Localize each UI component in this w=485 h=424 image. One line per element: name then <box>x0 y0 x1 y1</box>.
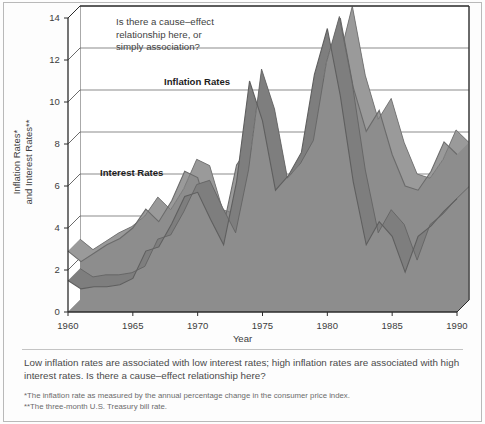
footnote-one: *The inflation rate as measured by the a… <box>24 390 464 401</box>
y-tick-label: 12 <box>28 54 60 65</box>
caption-text: Low inflation rates are associated with … <box>24 356 464 383</box>
x-tick-label: 1980 <box>307 320 347 331</box>
x-tick-label: 1985 <box>372 320 412 331</box>
series-label-inflation: Inflation Rates <box>164 76 230 87</box>
chart-annotation: Is there a cause–effect relationship her… <box>116 16 276 54</box>
y-tick-label: 6 <box>28 180 60 191</box>
y-axis-label-line: and Interest Rates** <box>23 92 35 232</box>
y-tick-label: 14 <box>28 12 60 23</box>
y-tick-label: 2 <box>28 264 60 275</box>
figure-page: Inflation Rates*and Interest Rates** Yea… <box>0 0 485 424</box>
x-tick-label: 1990 <box>437 320 477 331</box>
x-tick-label: 1975 <box>243 320 283 331</box>
y-tick-label: 8 <box>28 138 60 149</box>
chart-figure: Inflation Rates*and Interest Rates** Yea… <box>0 0 485 348</box>
x-tick-label: 1970 <box>178 320 218 331</box>
x-tick-label: 1960 <box>48 320 88 331</box>
y-tick-label: 0 <box>28 306 60 317</box>
y-axis-label-line: Inflation Rates* <box>11 92 23 232</box>
series-label-interest: Interest Rates <box>100 167 163 178</box>
y-tick-label: 4 <box>28 222 60 233</box>
footnotes: *The inflation rate as measured by the a… <box>24 390 464 412</box>
caption-block: Low inflation rates are associated with … <box>0 349 485 424</box>
x-tick-label: 1965 <box>113 320 153 331</box>
x-axis-label: Year <box>0 333 485 344</box>
y-tick-label: 10 <box>28 96 60 107</box>
y-axis-label: Inflation Rates*and Interest Rates** <box>11 92 35 232</box>
caption-divider <box>22 349 463 350</box>
footnote-two: **The three-month U.S. Treasury bill rat… <box>24 401 464 412</box>
